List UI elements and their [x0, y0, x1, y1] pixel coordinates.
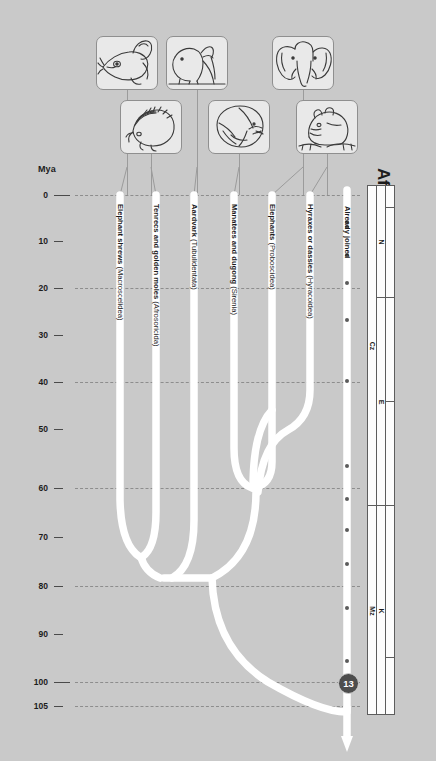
leader-line	[151, 154, 152, 195]
joined-dot	[345, 318, 349, 322]
geo-epoch-cell	[386, 402, 394, 506]
axis-tick-label-100: 100	[18, 677, 48, 687]
branch-label-proboscidea: Elephants (Proboscidea)	[267, 204, 277, 290]
branch-common-name: Hyraxes or dassies	[306, 204, 315, 273]
geo-epoch-cell	[386, 298, 394, 402]
diagram-canvas: Afrotheres join Mya 01020304050607080901…	[0, 0, 436, 761]
branch-clade-name: (Tubulidentata)	[190, 237, 199, 290]
gridline-0	[75, 195, 360, 196]
axis-tick-mark-80	[54, 586, 63, 587]
elephant-shrew-icon	[97, 37, 157, 89]
branch-clade-name: (Proboscidea)	[268, 240, 277, 289]
branch-clade-name: (Afrosoricida)	[152, 299, 161, 346]
arrowhead-icon	[341, 736, 353, 752]
elephant-pic[interactable]	[272, 36, 334, 90]
hyrax-pic[interactable]	[296, 100, 358, 154]
axis-tick-label-105: 105	[18, 701, 48, 711]
geo-epoch-cell	[386, 506, 394, 658]
elephant-shrew-pic[interactable]	[96, 36, 158, 90]
branch-label-tubulidentata: Aardvark (Tubulidentata)	[189, 204, 199, 290]
gridline-40	[75, 382, 360, 383]
hyrax-icon	[297, 101, 357, 153]
axis-tick-mark-30	[54, 335, 63, 336]
axis-unit-label: Mya	[38, 164, 56, 174]
branch-common-name: Aardvark	[190, 204, 199, 237]
geo-epoch-cell	[386, 658, 394, 716]
branch-common-name: Already joined	[343, 206, 352, 258]
tenrec-pic[interactable]	[120, 100, 182, 154]
axis-tick-label-70: 70	[18, 532, 48, 542]
axis-tick-label-50: 50	[18, 424, 48, 434]
axis-tick-mark-100	[54, 682, 70, 683]
branch-afroinsectiphilia-stem	[141, 557, 160, 578]
gridline-80	[75, 586, 360, 587]
axis-tick-mark-50	[54, 429, 63, 430]
geo-era-cell: Cz	[368, 186, 376, 506]
leader-line	[239, 154, 240, 195]
axis-tick-label-40: 40	[18, 377, 48, 387]
branch-clade-name: (Macroscelidea)	[116, 264, 125, 320]
manatee-icon	[209, 101, 269, 153]
axis-tick-mark-70	[54, 537, 63, 538]
axis-tick-mark-0	[54, 195, 70, 196]
branch-clade-name: (Hyracoidea)	[306, 273, 315, 319]
node-badge-13[interactable]: 13	[338, 673, 359, 694]
branch-common-name: Tenrecs and golden moles	[152, 204, 161, 299]
joined-dot	[345, 281, 349, 285]
branch-label-hyracoidea: Hyraxes or dassies (Hyracoidea)	[305, 204, 315, 319]
joined-dot	[345, 659, 349, 663]
branch-common-name: Elephants	[268, 204, 277, 240]
geo-period-label: N	[378, 239, 385, 244]
branch-label-sirenia: Manatees and dugong (Sirenia)	[229, 204, 239, 315]
axis-tick-mark-40	[54, 382, 63, 383]
branch-label-macroscelidea: Elephant shrews (Macroscelidea)	[115, 204, 125, 321]
geo-period-cell: K	[377, 506, 385, 716]
joined-dot	[345, 562, 349, 566]
geo-era-cell: Mz	[368, 506, 376, 716]
gridline-100	[75, 682, 360, 683]
geo-period-cell: N	[377, 186, 385, 298]
leader-line	[197, 90, 198, 195]
branch-label-already-joined: Already joined	[342, 206, 352, 258]
geo-era-label: Mz	[369, 606, 376, 615]
branch-afrotheria-stem	[212, 578, 346, 712]
axis-tick-mark-90	[54, 634, 63, 635]
geo-epoch-cell	[386, 186, 394, 208]
axis-tick-mark-20	[54, 288, 63, 289]
axis-tick-mark-105	[54, 706, 63, 707]
axis-tick-label-20: 20	[18, 283, 48, 293]
axis-tick-label-80: 80	[18, 581, 48, 591]
axis-tick-label-90: 90	[18, 629, 48, 639]
geo-period-label: E	[378, 399, 385, 404]
joined-dot	[345, 497, 349, 501]
branch-hyracoidea	[258, 195, 310, 492]
geo-epoch-cell	[386, 208, 394, 298]
branch-tethytheria-stem	[253, 410, 272, 488]
geo-period-cell: E	[377, 298, 385, 506]
axis-tick-label-30: 30	[18, 330, 48, 340]
manatee-pic[interactable]	[208, 100, 270, 154]
axis-tick-mark-10	[54, 241, 63, 242]
geo-epoch-column	[385, 185, 395, 715]
aardvark-pic[interactable]	[166, 36, 228, 90]
gridline-105	[75, 706, 360, 707]
joined-dot	[345, 528, 349, 532]
branch-label-afrosoricida: Tenrecs and golden moles (Afrosoricida)	[151, 204, 161, 347]
axis-tick-label-10: 10	[18, 236, 48, 246]
axis-tick-label-60: 60	[18, 483, 48, 493]
aardvark-icon	[167, 37, 227, 89]
branch-common-name: Elephant shrews	[116, 204, 125, 264]
branch-common-name: Manatees and dugong	[230, 204, 239, 284]
elephant-icon	[273, 37, 333, 89]
geo-era-label: Cz	[369, 341, 376, 350]
leader-line	[327, 154, 328, 195]
gridline-60	[75, 488, 360, 489]
joined-dot	[345, 464, 349, 468]
branch-clade-name: (Sirenia)	[230, 284, 239, 315]
geo-period-label: K	[378, 608, 385, 613]
tenrec-icon	[121, 101, 181, 153]
joined-dot	[345, 606, 349, 610]
axis-tick-mark-60	[54, 488, 63, 489]
branch-paenungulata-stem	[164, 492, 256, 578]
geological-time-scale: CzMz NEK	[367, 185, 395, 715]
